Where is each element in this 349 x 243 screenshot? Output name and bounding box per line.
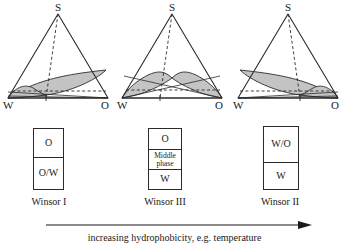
apex-label-surfactant: S <box>285 2 291 13</box>
phase-cell-top: W/O <box>264 127 298 162</box>
tube-caption-winsor-3: Winsor III <box>129 196 201 207</box>
phase-tube-winsor-1: O O/W <box>33 128 64 190</box>
vertex-label-oil: O <box>101 100 109 111</box>
ternary-diagram-winsor-1 <box>0 0 116 120</box>
ternary-panel-winsor-2: S W O <box>230 0 346 120</box>
tube-caption-winsor-2: Winsor II <box>244 196 316 207</box>
phase-cell-middle: Middle phase <box>149 149 181 168</box>
winsor-phase-diagram-figure: S W O S W O <box>0 0 349 243</box>
ternary-diagram-winsor-2 <box>230 0 346 120</box>
phase-cell-top: O <box>149 129 181 149</box>
ternary-panel-winsor-3: S W O <box>114 0 230 120</box>
ternary-panel-winsor-1: S W O <box>0 0 116 120</box>
phase-cell-bottom: W <box>149 169 181 189</box>
vertex-label-oil: O <box>215 100 223 111</box>
phase-cell-bottom: W <box>264 162 298 189</box>
phase-tube-winsor-3: O Middle phase W <box>148 128 182 190</box>
phase-tube-winsor-2: W/O W <box>263 126 299 190</box>
ternary-diagram-winsor-3 <box>114 0 230 120</box>
phase-cell-top: O <box>34 129 63 157</box>
hydrophobicity-axis: increasing hydrophobicity, e.g. temperat… <box>0 218 349 243</box>
tube-caption-winsor-1: Winsor I <box>16 196 82 207</box>
axis-arrow-caption: increasing hydrophobicity, e.g. temperat… <box>0 232 349 243</box>
apex-label-surfactant: S <box>169 2 175 13</box>
phase-cell-bottom: O/W <box>34 157 63 189</box>
apex-label-surfactant: S <box>55 2 61 13</box>
vertex-label-water: W <box>3 100 13 111</box>
vertex-label-water: W <box>233 100 243 111</box>
vertex-label-water: W <box>117 100 127 111</box>
vertex-label-oil: O <box>331 100 339 111</box>
